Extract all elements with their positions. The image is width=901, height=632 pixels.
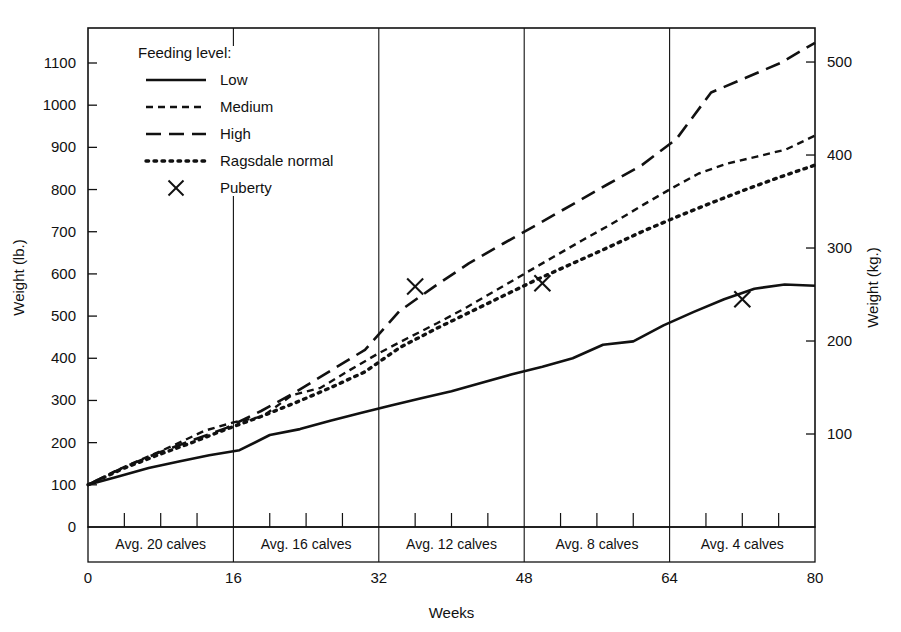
legend-label: Puberty bbox=[220, 179, 272, 196]
y-axis-label-lb: 0 bbox=[68, 518, 76, 535]
y-axis-label-lb: 1000 bbox=[43, 96, 76, 113]
section-label: Avg. 4 calves bbox=[701, 536, 784, 552]
legend-label: High bbox=[220, 125, 251, 142]
x-axis-label: 48 bbox=[516, 569, 533, 586]
section-label: Avg. 12 calves bbox=[406, 536, 497, 552]
y-axis-label-lb: 300 bbox=[51, 391, 76, 408]
section-label: Avg. 16 calves bbox=[261, 536, 352, 552]
series-line-low bbox=[88, 285, 815, 485]
x-axis-label: 16 bbox=[225, 569, 242, 586]
y-axis-label-lb: 800 bbox=[51, 181, 76, 198]
y-axis-label-lb: 400 bbox=[51, 349, 76, 366]
x-axis-label: 80 bbox=[807, 569, 824, 586]
y-axis-title-left: Weight (lb.) bbox=[10, 239, 27, 315]
legend-label: Low bbox=[220, 71, 248, 88]
puberty-marker bbox=[407, 279, 423, 295]
legend-label: Medium bbox=[220, 98, 273, 115]
y-axis-label-lb: 100 bbox=[51, 476, 76, 493]
y-axis-label-lb: 500 bbox=[51, 307, 76, 324]
x-axis-label: 32 bbox=[370, 569, 387, 586]
y-axis-label-kg: 100 bbox=[827, 425, 852, 442]
x-axis-label: 64 bbox=[661, 569, 678, 586]
plot-frame bbox=[88, 28, 815, 527]
y-axis-label-kg: 400 bbox=[827, 146, 852, 163]
series-line-medium bbox=[88, 136, 815, 485]
y-axis-label-kg: 500 bbox=[827, 53, 852, 70]
y-axis-label-lb: 600 bbox=[51, 265, 76, 282]
y-axis-label-lb: 700 bbox=[51, 223, 76, 240]
y-axis-label-lb: 900 bbox=[51, 138, 76, 155]
y-axis-label-lb: 200 bbox=[51, 434, 76, 451]
legend-label: Ragsdale normal bbox=[220, 152, 333, 169]
y-axis-label-lb: 1100 bbox=[44, 54, 76, 71]
growth-curve-chart: 010020030040050060070080090010001100Weig… bbox=[0, 0, 901, 632]
y-axis-title-right: Weight (kg.) bbox=[864, 247, 881, 328]
puberty-marker bbox=[534, 275, 550, 291]
x-axis-title: Weeks bbox=[429, 604, 475, 621]
legend-title: Feeding level: bbox=[138, 44, 231, 61]
chart-figure: 010020030040050060070080090010001100Weig… bbox=[0, 0, 901, 632]
x-axis-label: 0 bbox=[84, 569, 92, 586]
series-line-ragsdale-normal bbox=[88, 165, 815, 485]
section-label: Avg. 20 calves bbox=[115, 536, 206, 552]
y-axis-label-kg: 200 bbox=[827, 332, 852, 349]
section-label: Avg. 8 calves bbox=[555, 536, 638, 552]
y-axis-label-kg: 300 bbox=[827, 239, 852, 256]
series-line-high bbox=[88, 43, 815, 485]
